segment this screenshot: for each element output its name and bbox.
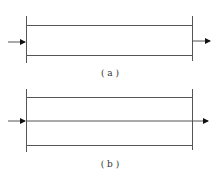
panel-b xyxy=(8,89,208,152)
caption-b: ( b ) xyxy=(80,159,140,169)
caption-a: ( a ) xyxy=(80,68,140,78)
panel-a xyxy=(8,16,210,63)
diagram-canvas xyxy=(0,0,219,180)
